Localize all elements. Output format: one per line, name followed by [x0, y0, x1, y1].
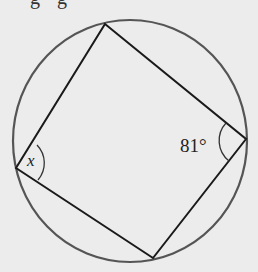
angle-label-x: x [26, 151, 35, 170]
inscribed-quadrilateral [16, 24, 246, 258]
angle-arc-right [219, 123, 229, 161]
angle-label-81: 81° [180, 135, 207, 156]
circumscribed-circle [13, 20, 247, 262]
cyclic-quadrilateral-diagram: 81° x [0, 0, 258, 272]
angle-arc-left [37, 145, 44, 180]
